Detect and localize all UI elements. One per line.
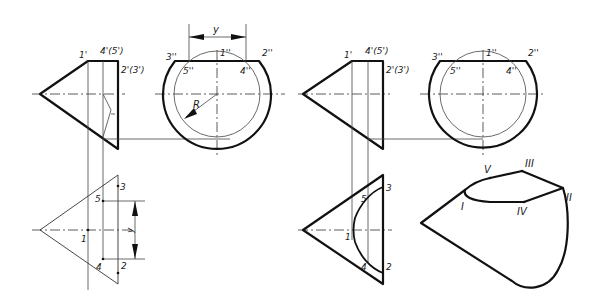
cone-top-outline bbox=[40, 175, 118, 284]
label-4-5-prime: 4'(5') bbox=[365, 46, 388, 56]
solid-outline bbox=[421, 171, 568, 288]
label-1-dprime: 1'' bbox=[486, 48, 497, 58]
orthographic-drawing: 1' 4'(5') 2'(3') y 3'' 1'' 2'' 5'' 4'' R bbox=[0, 0, 604, 308]
label-1: 1 bbox=[81, 234, 87, 244]
section-curve-front bbox=[103, 94, 111, 137]
point-2 bbox=[117, 272, 120, 275]
label-5: 5 bbox=[361, 194, 367, 204]
dim-label-y: y bbox=[125, 227, 135, 234]
label-1-prime: 1' bbox=[79, 50, 87, 60]
dim-label-y: y bbox=[212, 24, 220, 35]
isometric-view: I V III II IV bbox=[421, 158, 572, 288]
label-2: 2 bbox=[386, 262, 392, 272]
label-4-dprime: 4'' bbox=[506, 66, 517, 76]
point-V bbox=[489, 177, 492, 180]
cone-top-outline bbox=[303, 175, 383, 284]
section-edge bbox=[465, 188, 563, 202]
cone-front-outline bbox=[40, 61, 118, 149]
arrow-right-icon bbox=[231, 34, 246, 40]
label-2-dprime: 2'' bbox=[262, 48, 273, 58]
label-III: III bbox=[525, 158, 534, 169]
label-4: 4 bbox=[361, 262, 367, 272]
label-1: 1 bbox=[345, 232, 351, 242]
cone-front-outline bbox=[303, 61, 383, 149]
point-4 bbox=[102, 258, 105, 261]
point-III bbox=[521, 170, 524, 173]
point-IV bbox=[523, 201, 526, 204]
label-4: 4 bbox=[96, 262, 102, 272]
label-4-dprime: 4'' bbox=[240, 66, 251, 76]
label-V: V bbox=[484, 164, 492, 175]
left-top-view: 1 5 4 3 2 y bbox=[32, 175, 145, 284]
label-3-dprime: 3'' bbox=[432, 52, 443, 62]
label-2-3-prime: 2'(3') bbox=[121, 65, 144, 75]
arrow-left-icon bbox=[189, 34, 204, 40]
right-top-view: 1 5 4 3 2 bbox=[298, 175, 392, 284]
point-1 bbox=[87, 229, 90, 232]
arrow-down-icon bbox=[132, 244, 138, 259]
label-5-dprime: 5'' bbox=[183, 66, 194, 76]
label-5-dprime: 5'' bbox=[450, 66, 461, 76]
label-2-dprime: 2'' bbox=[528, 48, 539, 58]
label-2: 2 bbox=[121, 261, 127, 271]
label-4-5-prime: 4'(5') bbox=[100, 46, 123, 56]
label-3: 3 bbox=[120, 182, 126, 192]
point-3 bbox=[117, 185, 120, 188]
right-side-view: 3'' 1'' 2'' 5'' 4'' bbox=[420, 48, 545, 156]
point-5 bbox=[102, 200, 105, 203]
label-IV: IV bbox=[517, 206, 528, 217]
label-radius: R bbox=[193, 99, 200, 110]
left-front-view: 1' 4'(5') 2'(3') bbox=[32, 46, 230, 290]
left-side-view: y 3'' 1'' 2'' 5'' 4'' R bbox=[155, 24, 285, 156]
label-2-3-prime: 2'(3') bbox=[386, 65, 409, 75]
label-3: 3 bbox=[386, 183, 392, 193]
label-5: 5 bbox=[95, 194, 101, 204]
label-I: I bbox=[461, 201, 464, 212]
label-3-dprime: 3'' bbox=[166, 52, 177, 62]
label-1-prime: 1' bbox=[344, 50, 352, 60]
arrow-up-icon bbox=[132, 201, 138, 216]
label-II: II bbox=[566, 192, 572, 203]
label-1-dprime: 1'' bbox=[220, 48, 231, 58]
